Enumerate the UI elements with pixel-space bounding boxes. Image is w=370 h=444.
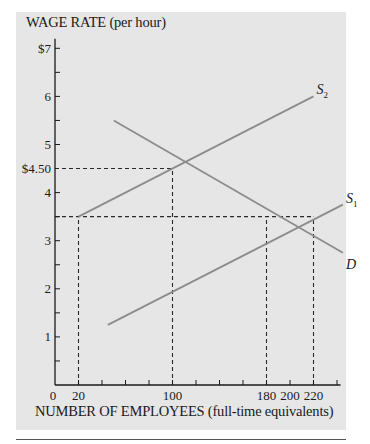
curve-s1: [108, 205, 343, 325]
curve-labels: DS2S1: [317, 82, 358, 271]
y-tick-label: $4.50: [22, 161, 51, 176]
y-tick-label: $7: [38, 41, 52, 56]
curve-label-s2: S2: [317, 82, 329, 100]
plot-area: $765$4.504321020100180200220 DS2S1: [0, 0, 370, 444]
x-tick-label: 220: [304, 388, 324, 403]
y-tick-label: 4: [45, 185, 52, 200]
curve-label-s1: S1: [346, 191, 358, 209]
curve-s2: [79, 96, 314, 216]
axes: $765$4.504321020100180200220: [22, 39, 341, 403]
x-tick-label: 100: [163, 388, 183, 403]
y-tick-label: 2: [45, 281, 52, 296]
y-tick-label: 5: [45, 137, 52, 152]
y-tick-label: 1: [45, 329, 52, 344]
curve-label-d: D: [345, 257, 356, 272]
x-tick-label: 0: [50, 388, 57, 403]
x-tick-label: 180: [257, 388, 277, 403]
y-tick-label: 6: [45, 89, 52, 104]
x-tick-label: 200: [280, 388, 300, 403]
curves: [79, 96, 343, 324]
reference-lines: [55, 169, 314, 385]
x-tick-label: 20: [72, 388, 85, 403]
y-tick-label: 3: [45, 233, 52, 248]
